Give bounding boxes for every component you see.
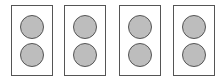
panel-3 [119,5,161,76]
panel-4 [173,5,215,76]
panel-2-bottom-circle [73,43,97,67]
panel-1-bottom-circle [20,43,44,67]
panel-3-top-circle [128,15,152,39]
panel-3-bottom-circle [128,43,152,67]
panel-4-top-circle [182,15,206,39]
panel-2 [64,5,106,76]
panel-1-top-circle [20,15,44,39]
panel-1 [11,5,53,76]
panel-2-top-circle [73,15,97,39]
panel-4-bottom-circle [182,43,206,67]
